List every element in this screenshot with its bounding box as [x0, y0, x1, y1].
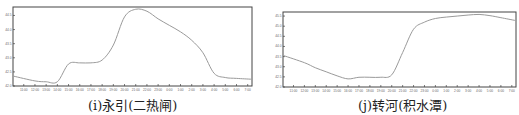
x-tick-label: 3:00 — [200, 88, 206, 92]
x-tick-label: 19:00 — [109, 88, 117, 92]
x-tick-label: 2:00 — [454, 89, 460, 93]
y-tick-label: 42.5 — [275, 75, 281, 79]
x-tick-label: 7:00 — [509, 89, 515, 93]
x-tick-label: 16:00 — [344, 89, 352, 93]
y-tick-label: 42.5 — [5, 70, 11, 74]
chart-panel-zhuanhe: 42.042.543.043.544.044.545.045.511:0012:… — [260, 0, 519, 115]
x-tick-label: 14:00 — [53, 88, 61, 92]
x-tick-label: 1:00 — [177, 88, 183, 92]
x-tick-label: 15:00 — [333, 89, 341, 93]
y-tick-label: 43.5 — [275, 55, 281, 59]
chart-caption-yongyin: (i)永引(二热闸) — [88, 95, 177, 114]
x-tick-label: 12:00 — [31, 88, 39, 92]
x-tick-label: 21:00 — [399, 89, 407, 93]
x-tick-label: 17:00 — [355, 89, 363, 93]
y-tick-label: 44.0 — [5, 28, 11, 32]
x-tick-label: 16:00 — [76, 88, 84, 92]
x-tick-label: 5:00 — [222, 88, 228, 92]
x-tick-label: 18:00 — [98, 88, 106, 92]
y-tick-label: 45.5 — [275, 14, 281, 18]
x-tick-label: 15:00 — [65, 88, 73, 92]
y-tick-label: 43.5 — [5, 42, 11, 46]
y-tick-label: 45.0 — [275, 24, 281, 28]
plot-frame — [283, 12, 516, 87]
x-tick-label: 21:00 — [132, 88, 140, 92]
line-chart-yongyin: 42.042.543.043.544.044.511:0012:0013:001… — [0, 0, 260, 95]
y-tick-label: 42.0 — [5, 84, 11, 88]
x-tick-label: 17:00 — [87, 88, 95, 92]
x-tick-label: 0:00 — [432, 89, 438, 93]
x-tick-label: 12:00 — [300, 89, 308, 93]
y-tick-label: 44.5 — [5, 13, 11, 17]
x-tick-label: 5:00 — [487, 89, 493, 93]
chart-caption-zhuanhe: (j)转河(积水潭) — [358, 95, 447, 114]
y-tick-label: 43.0 — [5, 56, 11, 60]
x-tick-label: 19:00 — [377, 89, 385, 93]
y-tick-label: 44.5 — [275, 34, 281, 38]
x-tick-label: 20:00 — [388, 89, 396, 93]
x-tick-label: 13:00 — [311, 89, 319, 93]
x-tick-label: 6:00 — [498, 89, 504, 93]
plot-frame — [13, 7, 252, 86]
y-tick-label: 44.0 — [275, 44, 281, 48]
x-tick-label: 7:00 — [245, 88, 251, 92]
y-tick-label: 43.0 — [275, 65, 281, 69]
water-level-line — [284, 14, 516, 78]
x-tick-label: 4:00 — [211, 88, 217, 92]
x-tick-label: 18:00 — [366, 89, 374, 93]
y-tick-label: 42.0 — [275, 85, 281, 89]
x-tick-label: 6:00 — [233, 88, 239, 92]
x-tick-label: 23:00 — [154, 88, 162, 92]
x-tick-label: 23:00 — [420, 89, 428, 93]
x-tick-label: 11:00 — [20, 88, 28, 92]
x-tick-label: 0:00 — [166, 88, 172, 92]
x-tick-label: 20:00 — [121, 88, 129, 92]
x-tick-label: 2:00 — [189, 88, 195, 92]
water-level-line — [14, 9, 252, 83]
x-tick-label: 1:00 — [443, 89, 449, 93]
line-chart-zhuanhe: 42.042.543.043.544.044.545.045.511:0012:… — [260, 0, 519, 95]
x-tick-label: 14:00 — [322, 89, 330, 93]
x-tick-label: 22:00 — [410, 89, 418, 93]
x-tick-label: 4:00 — [476, 89, 482, 93]
x-tick-label: 3:00 — [465, 89, 471, 93]
x-tick-label: 11:00 — [290, 89, 298, 93]
chart-panel-yongyin: 42.042.543.043.544.044.511:0012:0013:001… — [0, 0, 260, 115]
x-tick-label: 13:00 — [42, 88, 50, 92]
x-tick-label: 22:00 — [143, 88, 151, 92]
